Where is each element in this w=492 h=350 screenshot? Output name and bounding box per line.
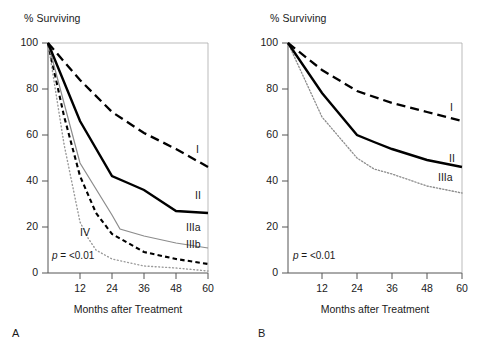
panel-a-curve-ii xyxy=(48,43,208,213)
panel-a-label-iv: IV xyxy=(80,226,90,238)
panel-b: % Surviving xyxy=(246,0,492,350)
panel-b-letter: B xyxy=(258,327,265,339)
panel-a-xtick-60: 60 xyxy=(194,282,222,294)
panel-b-plot xyxy=(246,0,492,350)
panel-b-xtick-60: 60 xyxy=(448,282,476,294)
panel-b-curve-iiia xyxy=(288,43,462,193)
panel-a-ytick-80: 80 xyxy=(8,82,38,94)
panel-a-xtick-36: 36 xyxy=(130,282,158,294)
panel-b-ytick-20: 20 xyxy=(248,220,278,232)
panel-b-p-text: = <0.01 xyxy=(299,250,336,261)
panel-a-label-iiib: IIIb xyxy=(186,238,201,250)
panel-a-axes xyxy=(48,43,208,273)
panel-b-ytick-0: 0 xyxy=(248,266,278,278)
panel-a-label-iiia: IIIa xyxy=(186,221,201,233)
panel-a-y-ticks xyxy=(42,43,48,273)
panel-a: % Surviving xyxy=(0,0,246,350)
panel-b-xtick-36: 36 xyxy=(378,282,406,294)
panel-a-ytick-20: 20 xyxy=(8,220,38,232)
panel-b-xtick-12: 12 xyxy=(308,282,336,294)
panel-b-ytick-40: 40 xyxy=(248,174,278,186)
panel-b-ytick-80: 80 xyxy=(248,82,278,94)
panel-b-ytick-100: 100 xyxy=(248,36,278,48)
panel-a-x-axis-title: Months after Treatment xyxy=(48,303,208,315)
panel-b-curve-ii xyxy=(288,43,462,167)
panel-a-xtick-48: 48 xyxy=(162,282,190,294)
panel-b-p-value: p = <0.01 xyxy=(293,250,335,261)
panel-a-ytick-60: 60 xyxy=(8,128,38,140)
panel-a-letter: A xyxy=(12,327,19,339)
panel-b-label-ii: II xyxy=(449,152,455,164)
panel-a-curve-iv xyxy=(48,43,208,271)
panel-b-xtick-24: 24 xyxy=(343,282,371,294)
panel-a-xtick-12: 12 xyxy=(66,282,94,294)
panel-a-p-text: = <0.01 xyxy=(58,250,95,261)
survival-figure: % Surviving xyxy=(0,0,492,350)
panel-a-label-i: I xyxy=(196,143,199,155)
panel-b-x-ticks xyxy=(322,273,462,279)
panel-b-xtick-48: 48 xyxy=(413,282,441,294)
panel-b-label-i: I xyxy=(450,101,453,113)
panel-b-x-axis-title: Months after Treatment xyxy=(288,303,462,315)
panel-b-y-ticks xyxy=(282,43,288,273)
panel-a-label-ii: II xyxy=(195,189,201,201)
panel-a-ytick-40: 40 xyxy=(8,174,38,186)
panel-b-axes xyxy=(288,43,462,273)
panel-a-p-value: p = <0.01 xyxy=(52,250,94,261)
panel-a-ytick-100: 100 xyxy=(8,36,38,48)
panel-a-x-ticks xyxy=(80,273,208,279)
panel-a-ytick-0: 0 xyxy=(8,266,38,278)
panel-a-xtick-24: 24 xyxy=(98,282,126,294)
panel-b-label-iiia: IIIa xyxy=(438,171,453,183)
panel-a-curve-iiia xyxy=(48,43,208,248)
panel-b-ytick-60: 60 xyxy=(248,128,278,140)
